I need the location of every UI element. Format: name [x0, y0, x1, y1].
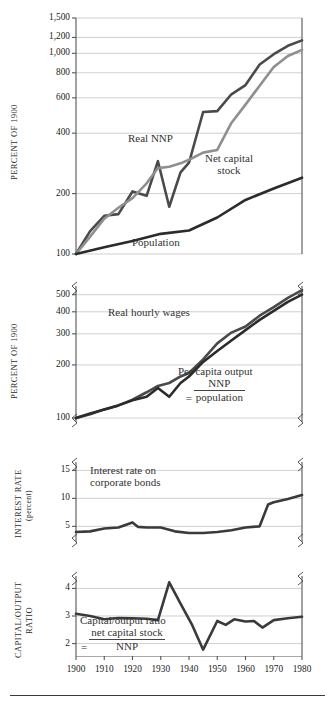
annotation-real-nnp: Real NNP [128, 132, 173, 144]
x-axis [0, 656, 335, 676]
y-tick-label: 400 [30, 127, 70, 137]
panel-percent-of-1900-top: PERCENT OF 1900 Real NNP Net capital sto… [0, 14, 335, 262]
panel-capital-output-ratio: CAPITAL/OUTPUT RATIO Capital/output rati… [0, 570, 335, 670]
net-capital-stock-line1: Net capital [205, 152, 253, 164]
y-tick-label: 200 [30, 359, 70, 369]
y-tick-label: 4 [30, 582, 70, 592]
figure-root: PERCENT OF 1900 Real NNP Net capital sto… [0, 0, 335, 707]
y-tick-label: 400 [30, 306, 70, 316]
y-tick-label: 300 [30, 328, 70, 338]
per-capita-numerator: NNP [194, 377, 245, 390]
per-capita-line1: Per capita output [178, 365, 253, 377]
y-tick-label: 5 [30, 520, 70, 530]
y-tick-label: 100 [30, 248, 70, 258]
y-tick-label: 15 [30, 464, 70, 474]
y-tick-label: 600 [30, 92, 70, 102]
y-tick-label: 3 [30, 610, 70, 620]
per-capita-formula: = NNP population [186, 377, 245, 404]
panel-interest-rate: INTEREST RATE (percent) Interest rate on… [0, 446, 335, 564]
y-tick-label: 2 [30, 638, 70, 648]
y-tick-label: 1,000 [30, 47, 70, 57]
interest-rate-line2: corporate bonds [90, 476, 161, 488]
annotation-per-capita-output: Per capita output = NNP population [178, 365, 253, 404]
capital-output-numerator: net capital stock [89, 626, 164, 639]
y-tick-label: 100 [30, 412, 70, 422]
bottom-divider-rule [10, 695, 325, 696]
capital-output-denominator: NNP [89, 640, 164, 652]
per-capita-equals: = [186, 392, 194, 404]
per-capita-denominator: population [194, 391, 245, 403]
y-tick-label: 1,200 [30, 31, 70, 41]
y-tick-label: 800 [30, 67, 70, 77]
annotation-net-capital-stock: Net capital stock [205, 152, 253, 177]
y-tick-label: 1,500 [30, 12, 70, 22]
interest-rate-line1: Interest rate on [90, 464, 156, 476]
annotation-interest-rate: Interest rate on corporate bonds [90, 464, 161, 489]
y-tick-label: 500 [30, 289, 70, 299]
annotation-population: Population [132, 236, 180, 248]
panel-percent-of-1900-bottom: PERCENT OF 1900 Real hourly wages Per ca… [0, 268, 335, 440]
y-tick-label: 10 [30, 492, 70, 502]
annotation-capital-output-ratio: Capital/output ratio = net capital stock… [80, 614, 166, 653]
capital-output-formula: = net capital stock NNP [81, 626, 165, 653]
capital-output-equals: = [81, 641, 89, 653]
y-tick-label: 200 [30, 188, 70, 198]
capital-output-line1: Capital/output ratio [80, 614, 166, 626]
annotation-real-hourly-wages: Real hourly wages [108, 306, 190, 318]
net-capital-stock-line2: stock [217, 164, 240, 176]
